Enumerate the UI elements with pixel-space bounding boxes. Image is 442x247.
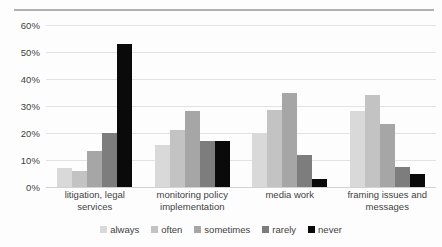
bar-group: [46, 25, 144, 187]
legend-swatch-icon: [100, 226, 107, 233]
bar-never: [117, 44, 132, 187]
bar-rarely: [102, 133, 117, 187]
bar-group: [144, 25, 242, 187]
x-axis-category-labels: litigation, legal servicesmonitoring pol…: [46, 189, 436, 213]
legend-swatch-icon: [262, 226, 269, 233]
legend-label: never: [318, 224, 342, 235]
bar-sometimes: [282, 93, 297, 188]
bar-sometimes: [87, 151, 102, 187]
legend-label: rarely: [272, 224, 296, 235]
bar-always: [57, 168, 72, 187]
bar-rarely: [200, 141, 215, 187]
bar-always: [350, 111, 365, 187]
bar-often: [72, 171, 87, 187]
y-tick-label: 30%: [21, 101, 40, 112]
bar-rarely: [297, 155, 312, 187]
legend-label: often: [161, 224, 182, 235]
bar-group: [339, 25, 437, 187]
legend-item-often[interactable]: often: [151, 224, 182, 235]
bar-always: [155, 145, 170, 187]
bar-never: [410, 174, 425, 188]
legend-item-rarely[interactable]: rarely: [262, 224, 296, 235]
legend-item-never[interactable]: never: [308, 224, 342, 235]
bar-groups: [46, 25, 436, 187]
bar-sometimes: [380, 124, 395, 187]
y-tick-label: 60%: [21, 20, 40, 31]
legend-label: sometimes: [204, 224, 250, 235]
legend-item-sometimes[interactable]: sometimes: [194, 224, 250, 235]
bar-often: [267, 110, 282, 187]
category-label: media work: [241, 189, 339, 213]
y-tick-label: 10%: [21, 155, 40, 166]
gridline-0pct: [46, 187, 436, 188]
y-tick-label: 20%: [21, 128, 40, 139]
legend-label: always: [110, 224, 139, 235]
legend-swatch-icon: [151, 226, 158, 233]
bar-rarely: [395, 167, 410, 187]
y-tick-label: 40%: [21, 74, 40, 85]
plot-area: 60%50%40%30%20%10%0%: [46, 25, 436, 187]
legend-swatch-icon: [308, 226, 315, 233]
bar-never: [215, 141, 230, 187]
bar-often: [365, 95, 380, 187]
top-divider-rule: [14, 9, 434, 11]
bar-group: [241, 25, 339, 187]
legend-item-always[interactable]: always: [100, 224, 139, 235]
chart-legend: alwaysoftensometimesrarelynever: [0, 224, 442, 235]
y-tick-label: 0%: [26, 182, 40, 193]
bar-often: [170, 130, 185, 187]
category-label: monitoring policy implementation: [144, 189, 242, 213]
bar-chart-figure: 60%50%40%30%20%10%0% litigation, legal s…: [0, 0, 442, 247]
category-label: framing issues and messages: [339, 189, 437, 213]
bar-always: [252, 133, 267, 187]
bar-sometimes: [185, 111, 200, 187]
y-tick-label: 50%: [21, 47, 40, 58]
legend-swatch-icon: [194, 226, 201, 233]
bar-never: [312, 179, 327, 187]
category-label: litigation, legal services: [46, 189, 144, 213]
